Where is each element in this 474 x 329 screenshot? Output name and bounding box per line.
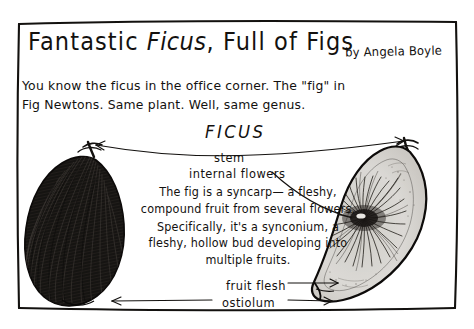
byline: by Angela Boyle bbox=[345, 44, 442, 61]
label-fruit-flesh: fruit flesh bbox=[226, 280, 286, 293]
label-stem: stem bbox=[214, 152, 245, 165]
label-ostiolum: ostiolum bbox=[222, 297, 275, 310]
title-genus-italic: Ficus bbox=[147, 26, 207, 55]
title-prefix: Fantastic bbox=[28, 26, 147, 55]
genus-heading: FICUS bbox=[205, 121, 265, 142]
poster-canvas: Fantastic Ficus, Full of Figs by Angela … bbox=[0, 0, 474, 329]
label-internal-flowers: internal flowers bbox=[189, 168, 285, 181]
intro-paragraph: You know the ficus in the office corner.… bbox=[22, 76, 345, 113]
page-title: Fantastic Ficus, Full of Figs bbox=[28, 26, 354, 56]
body-paragraph: The fig is a syncarp— a fleshy, compound… bbox=[139, 185, 357, 270]
title-suffix: , Full of Figs bbox=[206, 26, 354, 55]
